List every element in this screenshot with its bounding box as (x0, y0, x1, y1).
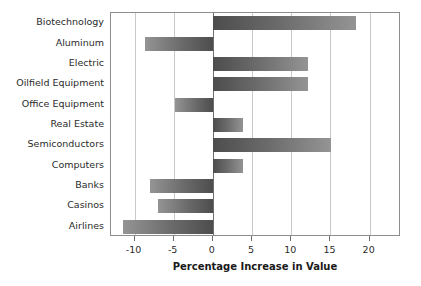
x-tick-label: 10 (284, 244, 296, 255)
bar (175, 98, 213, 112)
tick-mark (329, 236, 330, 241)
y-axis-label: Real Estate (0, 119, 104, 129)
tick-mark (290, 236, 291, 241)
bar (123, 220, 213, 234)
bar (213, 138, 331, 152)
y-axis-label: Electric (0, 58, 104, 68)
x-tick-label: 20 (363, 244, 375, 255)
tick-mark (369, 236, 370, 241)
tick-mark (173, 236, 174, 241)
chart-page: BiotechnologyAluminumElectricOilfield Eq… (0, 0, 421, 286)
tick-mark (134, 236, 135, 241)
gridline-5 (252, 13, 253, 235)
y-axis-label: Casinos (0, 200, 104, 210)
bar (213, 118, 244, 132)
gridline-15 (330, 13, 331, 235)
y-axis-label: Semiconductors (0, 139, 104, 149)
y-axis-label: Office Equipment (0, 99, 104, 109)
x-tick-label: 5 (248, 244, 254, 255)
x-tick-label: -10 (126, 244, 142, 255)
y-axis-label: Computers (0, 160, 104, 170)
x-axis-tick-labels: -10-505101520 (110, 244, 400, 258)
gridline-10 (291, 13, 292, 235)
x-tick-label: -5 (168, 244, 177, 255)
bar (150, 179, 213, 193)
y-axis-label: Airlines (0, 221, 104, 231)
bar (213, 16, 356, 30)
tick-mark (251, 236, 252, 241)
x-axis-tick-marks (110, 236, 400, 244)
x-tick-label: 15 (323, 244, 335, 255)
x-tick-label: 0 (209, 244, 215, 255)
plot-area (110, 12, 400, 236)
bar (158, 199, 213, 213)
tick-mark (212, 236, 213, 241)
y-axis-label: Aluminum (0, 38, 104, 48)
bar (145, 37, 213, 51)
plot-inner (111, 13, 399, 235)
y-axis-category-labels: BiotechnologyAluminumElectricOilfield Eq… (0, 12, 104, 236)
bar (213, 77, 308, 91)
y-axis-label: Biotechnology (0, 17, 104, 27)
gridline-20 (370, 13, 371, 235)
x-axis-title: Percentage Increase in Value (110, 261, 400, 272)
bar (213, 57, 308, 71)
y-axis-label: Banks (0, 180, 104, 190)
gridline--10 (135, 13, 136, 235)
y-axis-label: Oilfield Equipment (0, 78, 104, 88)
bar (213, 159, 244, 173)
